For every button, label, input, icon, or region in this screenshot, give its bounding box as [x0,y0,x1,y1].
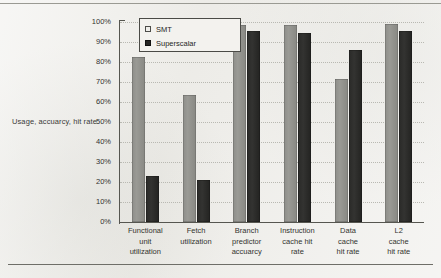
category-label-line: L2 [374,226,423,237]
category-label-line: utilization [172,237,221,248]
bar-smt [385,24,398,222]
category-label-line: Fetch [172,226,221,237]
category-label-line: Instruction [273,226,322,237]
bar-smt [233,25,246,222]
category-label-line: cache hit [273,237,322,248]
gridlines [120,22,424,222]
category-label-line: cache [324,237,373,248]
category-label-line: Data [324,226,373,237]
category-label-line: hit rate [374,247,423,258]
category-label-line: rate [273,247,322,258]
x-axis-category-label: Datacachehit rate [323,226,374,266]
category-label-line: accuarcy [222,247,271,258]
category-label-line: Branch [222,226,271,237]
category-label-line: hit rate [324,247,373,258]
y-tick-label: 40% [96,137,111,146]
x-axis-category-label: Fetchutilization [171,226,222,266]
category-label-line: predictor [222,237,271,248]
y-tick-label: 50% [96,117,111,126]
dark-square-icon [145,40,151,46]
category-label-line: cache [374,237,423,248]
figure-canvas: Usage, accuarcy, hit rate 100%90%80%70%6… [0,0,441,278]
bar-smt [132,57,145,222]
gridline [120,122,424,123]
y-axis-top-serif [119,20,125,21]
x-axis-category-label: Functionalunitutilization [120,226,171,266]
legend-item-smt: SMT [145,22,236,36]
gridline [120,62,424,63]
y-tick-label: 10% [96,197,111,206]
plot-area: 100%90%80%70%60%50%40%30%20%10%0% [120,22,424,222]
y-tick-label: 60% [96,97,111,106]
top-divider-rule [0,3,441,4]
legend-box: SMT Superscalar [139,18,241,52]
legend-label-smt: SMT [156,25,172,34]
gridline [120,202,424,203]
bar-superscalar [146,176,159,222]
y-tick-mark [234,222,240,223]
gridline [120,102,424,103]
bar-smt [335,79,348,222]
y-tick-label: 90% [96,37,111,46]
category-label-line: Functional [121,226,170,237]
bar-superscalar [298,33,311,222]
legend-label-superscalar: Superscalar [156,39,196,48]
x-axis-category-labels: FunctionalunitutilizationFetchutilizatio… [120,226,424,266]
y-tick-label: 100% [92,17,111,26]
y-tick-label: 80% [96,57,111,66]
y-tick-label: 20% [96,177,111,186]
y-tick-label: 70% [96,77,111,86]
y-tick-label: 30% [96,157,111,166]
legend-item-superscalar: Superscalar [145,36,236,50]
x-axis-line [119,222,424,223]
bar-superscalar [399,31,412,222]
bar-superscalar [247,31,260,222]
x-axis-category-label: L2cachehit rate [373,226,424,266]
gridline [120,142,424,143]
bar-smt [183,95,196,222]
bar-superscalar [349,50,362,222]
category-label-line: unit [121,237,170,248]
bar-smt [284,25,297,222]
category-label-line: utilization [121,247,170,258]
gridline [120,82,424,83]
y-axis-caption: Usage, accuarcy, hit rate [12,117,104,127]
x-axis-category-label: Instructioncache hitrate [272,226,323,266]
bar-superscalar [197,180,210,222]
y-tick-label: 0% [100,217,111,226]
light-square-icon [145,26,151,32]
gridline [120,182,424,183]
gridline [120,162,424,163]
x-axis-category-label: Branchpredictoraccuarcy [221,226,272,266]
